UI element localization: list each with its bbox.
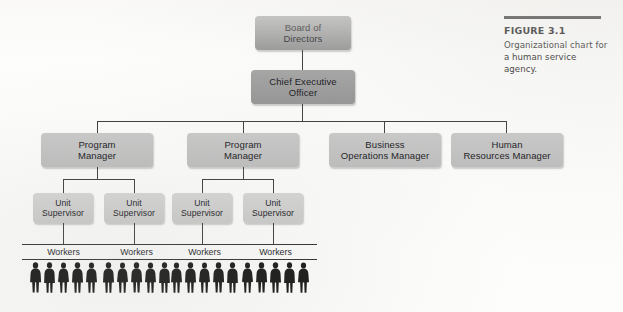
workers-rule-bottom <box>22 259 105 260</box>
worker-silhouette-icon <box>170 262 183 293</box>
worker-silhouette-icon <box>130 262 143 293</box>
org-chart: Board of Directors Chief Executive Offic… <box>0 0 480 312</box>
workers-group-4[interactable]: Workers <box>234 244 317 294</box>
node-unit-supervisor-1-line1: Unit <box>42 198 84 208</box>
node-unit-supervisor-3[interactable]: Unit Supervisor <box>172 193 232 223</box>
node-unit-supervisor-4[interactable]: Unit Supervisor <box>243 193 303 223</box>
worker-silhouette-icon <box>198 262 211 293</box>
worker-silhouette-icon <box>212 262 225 293</box>
connector-bus-to-unit-supervisor-1 <box>63 179 64 193</box>
workers-rule-top <box>22 244 105 245</box>
node-unit-supervisor-2[interactable]: Unit Supervisor <box>104 193 164 223</box>
node-chief-executive-officer[interactable]: Chief Executive Officer <box>251 70 355 104</box>
worker-silhouette-icon <box>102 262 115 293</box>
node-board-line1: Board of <box>284 22 323 33</box>
node-unit-supervisor-2-line1: Unit <box>113 198 155 208</box>
figure-caption: FIGURE 3.1 Organizational chart for a hu… <box>504 16 608 75</box>
worker-silhouette-icon <box>184 262 197 293</box>
worker-silhouette-icon <box>283 262 296 293</box>
workers-group-1-label: Workers <box>22 246 105 258</box>
connector-bus-to-unit-supervisor-2 <box>134 179 135 193</box>
worker-silhouette-icon <box>71 262 84 293</box>
worker-silhouettes <box>234 261 317 293</box>
connector-board-to-ceo <box>302 50 303 70</box>
node-unit-supervisor-1-line2: Supervisor <box>42 208 84 218</box>
worker-silhouette-icon <box>269 262 282 293</box>
connector-unit-supervisor-2-to-workers <box>134 223 135 244</box>
node-unit-supervisor-4-line2: Supervisor <box>252 208 294 218</box>
connector-bus-to-unit-supervisor-3 <box>202 179 203 193</box>
scanned-page: Board of Directors Chief Executive Offic… <box>0 0 623 312</box>
connector-ceo-drop <box>302 104 303 121</box>
worker-silhouette-icon <box>297 262 310 293</box>
worker-silhouette-icon <box>255 262 268 293</box>
node-ceo-line1: Chief Executive <box>269 76 337 87</box>
connector-manager-bus <box>97 121 506 122</box>
connector-program-manager-2-drop <box>243 167 244 179</box>
node-program-manager-2[interactable]: Program Manager <box>187 133 299 167</box>
connector-unit-supervisor-3-to-workers <box>202 223 203 244</box>
connector-bus-to-business-manager <box>384 121 385 133</box>
worker-silhouette-icon <box>144 262 157 293</box>
connector-bus-to-program-manager-1 <box>97 121 98 133</box>
worker-silhouette-icon <box>29 262 42 293</box>
worker-silhouette-icon <box>241 262 254 293</box>
caption-rule <box>504 16 601 19</box>
worker-silhouettes <box>22 261 105 293</box>
node-hr-manager-line2: Resources Manager <box>463 150 550 161</box>
node-business-manager-line1: Business <box>341 139 429 150</box>
node-human-resources-manager[interactable]: Human Resources Manager <box>451 133 563 167</box>
connector-unit-supervisor-1-to-workers <box>63 223 64 244</box>
figure-caption-text: Organizational chart for a human service… <box>504 39 608 76</box>
workers-group-1[interactable]: Workers <box>22 244 105 294</box>
node-program-manager-2-line1: Program <box>224 139 262 150</box>
connector-supervisor-bus-2 <box>202 179 273 180</box>
workers-rule-top <box>234 244 317 245</box>
workers-rule-bottom <box>234 259 317 260</box>
node-business-manager-line2: Operations Manager <box>341 150 429 161</box>
node-program-manager-1[interactable]: Program Manager <box>41 133 153 167</box>
connector-supervisor-bus-1 <box>63 179 134 180</box>
workers-group-4-label: Workers <box>234 246 317 258</box>
connector-bus-to-hr-manager <box>506 121 507 133</box>
node-unit-supervisor-2-line2: Supervisor <box>113 208 155 218</box>
node-unit-supervisor-3-line2: Supervisor <box>181 208 223 218</box>
node-board-line2: Directors <box>284 33 323 44</box>
node-unit-supervisor-3-line1: Unit <box>181 198 223 208</box>
connector-program-manager-1-drop <box>97 167 98 179</box>
node-hr-manager-line1: Human <box>463 139 550 150</box>
connector-bus-to-program-manager-2 <box>243 121 244 133</box>
node-program-manager-1-line2: Manager <box>78 150 116 161</box>
figure-label: FIGURE 3.1 <box>504 25 608 36</box>
node-unit-supervisor-4-line1: Unit <box>252 198 294 208</box>
connector-unit-supervisor-4-to-workers <box>273 223 274 244</box>
worker-silhouette-icon <box>43 262 56 293</box>
node-business-operations-manager[interactable]: Business Operations Manager <box>329 133 441 167</box>
node-board-of-directors[interactable]: Board of Directors <box>255 16 351 50</box>
worker-silhouette-icon <box>116 262 129 293</box>
node-program-manager-1-line1: Program <box>78 139 116 150</box>
node-ceo-line2: Officer <box>269 87 337 98</box>
connector-bus-to-unit-supervisor-4 <box>273 179 274 193</box>
node-unit-supervisor-1[interactable]: Unit Supervisor <box>33 193 93 223</box>
worker-silhouette-icon <box>57 262 70 293</box>
node-program-manager-2-line2: Manager <box>224 150 262 161</box>
